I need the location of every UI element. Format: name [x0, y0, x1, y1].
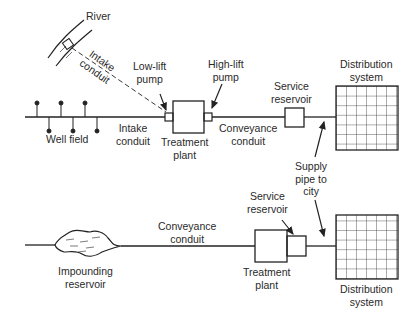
label-conveyance-conduit-bottom: Conveyance conduit: [158, 220, 216, 245]
distribution-grid-bottom: [336, 215, 398, 279]
treatment-plant-top: [173, 101, 204, 133]
service-reservoir-top: [285, 108, 304, 127]
treatment-plant-bottom: [255, 230, 287, 262]
label-treatment-plant-top: Treatment plant: [161, 136, 208, 161]
label-distribution-system-top: Distribution system: [340, 58, 393, 83]
label-intake-conduit: Intake conduit: [116, 122, 150, 147]
label-conveyance-conduit-top: Conveyance conduit: [219, 122, 277, 147]
label-impounding-reservoir: Impounding reservoir: [58, 265, 113, 290]
low-lift-pump: [165, 113, 173, 121]
high-lift-pump: [204, 113, 212, 121]
top-system: [25, 20, 336, 133]
label-river: River: [86, 10, 111, 23]
distribution-grid-top: [336, 86, 398, 150]
label-high-lift-pump: High-lift pump: [208, 58, 244, 83]
impounding-reservoir: [55, 230, 121, 256]
label-distribution-system-bottom: Distribution system: [340, 283, 393, 308]
service-reservoir-bottom: [287, 236, 306, 256]
label-service-reservoir-bottom: Service reservoir: [247, 190, 288, 215]
label-treatment-plant-bottom: Treatment plant: [243, 266, 290, 291]
river-bank-left: [48, 20, 84, 58]
label-low-lift-pump: Low-lift pump: [133, 60, 166, 85]
label-service-reservoir-top: Service reservoir: [271, 80, 312, 105]
label-well-field: Well field: [46, 133, 88, 146]
label-supply-pipe: Supply pipe to city: [295, 160, 327, 198]
